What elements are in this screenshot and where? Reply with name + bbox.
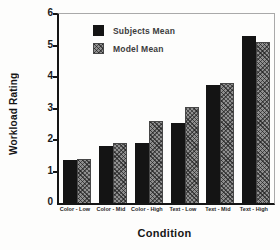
y-tick-label: 0 bbox=[38, 197, 53, 207]
y-tick-mark bbox=[53, 76, 57, 78]
y-tick-label: 6 bbox=[38, 8, 53, 18]
legend-label: Model Mean bbox=[113, 44, 164, 54]
workload-bar-chart-figure: Workload Rating 0123456 Subjects Mean Mo… bbox=[0, 0, 280, 250]
y-axis-title: Workload Rating bbox=[8, 52, 22, 176]
model-mean-swatch-icon bbox=[93, 43, 104, 54]
y-tick-mark bbox=[53, 13, 57, 15]
y-axis: 0123456 bbox=[38, 13, 53, 202]
bar-subjects-mean bbox=[242, 36, 256, 203]
y-tick-label: 5 bbox=[38, 40, 53, 50]
legend-label: Subjects Mean bbox=[113, 26, 175, 36]
x-category-label: Text - High bbox=[238, 206, 271, 212]
y-tick-label: 1 bbox=[38, 166, 53, 176]
legend-item-model-mean: Model Mean bbox=[93, 43, 175, 54]
x-category-label: Color - High bbox=[130, 206, 163, 212]
legend-item-subjects-mean: Subjects Mean bbox=[93, 25, 175, 36]
bar-subjects-mean bbox=[63, 160, 77, 203]
x-category-label: Text - Mid bbox=[202, 206, 235, 212]
bar-model-mean bbox=[256, 42, 270, 203]
x-axis-title: Condition bbox=[57, 227, 272, 239]
y-tick-mark bbox=[53, 139, 57, 141]
y-tick-label: 4 bbox=[38, 71, 53, 81]
bar-subjects-mean bbox=[135, 143, 149, 203]
bar-model-mean bbox=[113, 143, 127, 203]
y-tick-mark bbox=[53, 171, 57, 173]
x-category-label: Color - Mid bbox=[94, 206, 127, 212]
bar-model-mean bbox=[77, 159, 91, 203]
x-category-label: Color - Low bbox=[58, 206, 91, 212]
bar-subjects-mean bbox=[206, 85, 220, 203]
bar-model-mean bbox=[185, 107, 199, 203]
y-tick-mark bbox=[53, 108, 57, 110]
bar-subjects-mean bbox=[99, 146, 113, 203]
bar-model-mean bbox=[220, 83, 234, 203]
bar-subjects-mean bbox=[171, 123, 185, 203]
legend: Subjects Mean Model Mean bbox=[93, 25, 175, 61]
bar-model-mean bbox=[149, 121, 163, 203]
y-tick-label: 2 bbox=[38, 134, 53, 144]
y-tick-label: 3 bbox=[38, 103, 53, 113]
subjects-mean-swatch-icon bbox=[93, 25, 104, 36]
x-category-label: Text - Low bbox=[166, 206, 199, 212]
y-tick-mark bbox=[53, 45, 57, 47]
x-axis-category-labels: Color - LowColor - MidColor - HighText -… bbox=[57, 206, 274, 216]
